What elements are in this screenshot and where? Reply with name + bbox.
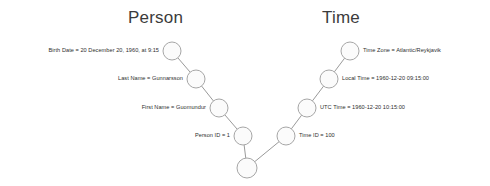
time-node-label-3: UTC Time = 1960-12-20 10:15:00 — [320, 105, 405, 111]
time-node-3[interactable] — [298, 99, 316, 117]
time-node-label-4: Time ID = 100 — [299, 133, 335, 139]
diagram-edge — [202, 86, 214, 101]
root-node[interactable] — [237, 158, 257, 178]
diagram-edge — [334, 58, 344, 72]
diagram-canvas — [0, 0, 490, 186]
diagram-edge — [312, 86, 323, 101]
entity-relationship-diagram: Person Time Birth Date = 20 December 20,… — [0, 0, 490, 186]
time-node-label-1: Time Zone = Atlantic/Reykjavik — [363, 48, 441, 54]
time-node-2[interactable] — [320, 70, 338, 88]
time-node-label-2: Local Time = 1960-12-20 09:15:00 — [342, 76, 429, 82]
person-node-3[interactable] — [210, 99, 228, 117]
diagram-edge — [244, 145, 246, 158]
person-node-1[interactable] — [163, 42, 181, 60]
diagram-edge — [291, 115, 301, 129]
person-node-2[interactable] — [187, 70, 205, 88]
person-node-label-2: Last Name = Gunnarsson — [118, 76, 183, 82]
diagram-edge — [178, 58, 190, 72]
person-node-label-1: Birth Date = 20 December 20, 1960, at 9:… — [49, 48, 159, 54]
diagram-edge — [225, 115, 237, 129]
person-node-label-4: Person ID = 1 — [195, 133, 230, 139]
time-node-1[interactable] — [341, 42, 359, 60]
person-node-label-3: First Name = Guomundur — [142, 105, 206, 111]
person-node-4[interactable] — [234, 127, 252, 145]
diagram-edge — [255, 142, 279, 162]
time-node-4[interactable] — [277, 127, 295, 145]
